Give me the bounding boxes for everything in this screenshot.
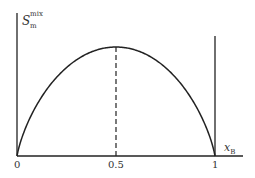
x-tick-0: 0 (14, 159, 20, 170)
y-axis-label: S mix m (22, 14, 30, 28)
y-label-subscript: m (30, 22, 37, 30)
x-axis-label: xB (224, 141, 235, 154)
y-label-symbol: S (22, 14, 30, 28)
x-label-subscript: B (230, 148, 235, 156)
x-tick-0-5: 0.5 (108, 159, 124, 170)
x-tick-1: 1 (212, 159, 218, 170)
y-label-superscript: mix (30, 10, 43, 18)
entropy-of-mixing-chart (0, 0, 255, 178)
